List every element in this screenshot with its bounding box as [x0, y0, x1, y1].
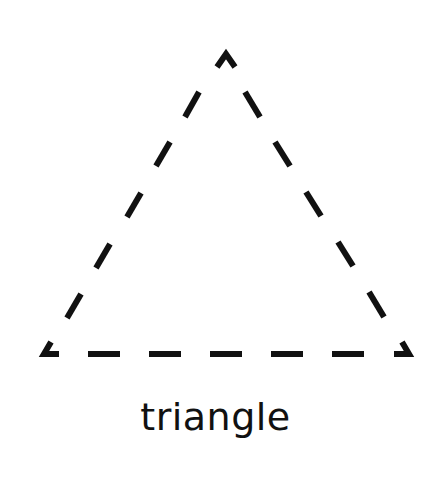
apex-corner: [217, 54, 235, 67]
right-edge-dash: [245, 92, 260, 117]
right-edge-dash: [306, 192, 321, 216]
bottom-left-corner: [44, 342, 59, 354]
right-edge-dash: [338, 242, 353, 266]
left-edge-dash: [67, 294, 81, 318]
shape-caption: triangle: [0, 392, 431, 442]
right-edge-dash: [275, 142, 290, 166]
left-edge-dash: [96, 244, 110, 268]
bottom-right-corner: [394, 342, 409, 354]
triangle-outline: [44, 54, 409, 354]
right-edge-dash: [369, 292, 384, 317]
left-edge-dash: [185, 92, 199, 117]
left-edge-dash: [156, 142, 170, 166]
left-edge-dash: [127, 193, 141, 217]
